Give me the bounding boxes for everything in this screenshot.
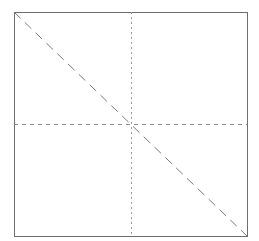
diagram-canvas <box>0 0 259 241</box>
